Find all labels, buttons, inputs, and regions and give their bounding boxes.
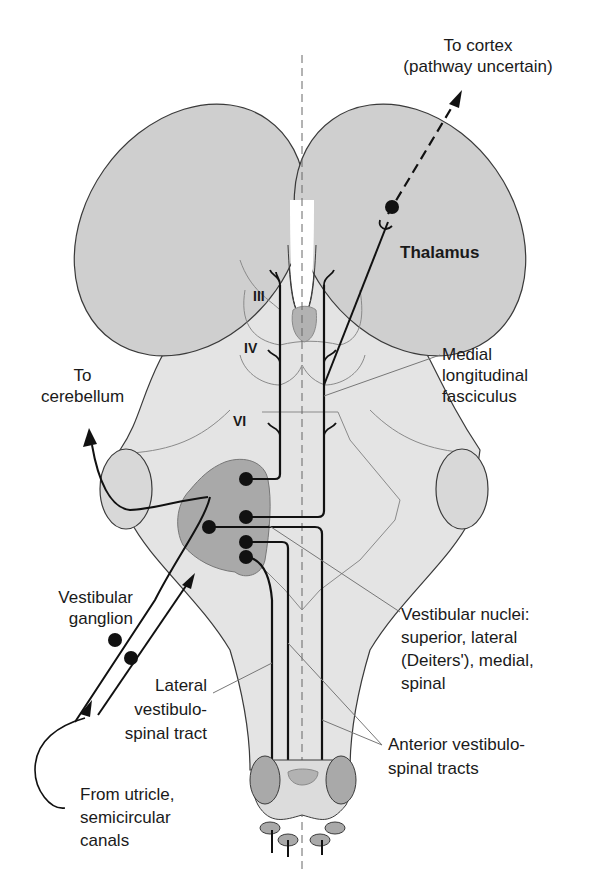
nerve-iv-label: IV: [244, 340, 257, 356]
lateral-vst-line-2: vestibulo-: [95, 698, 207, 722]
thalamic-relay-neuron: [385, 200, 399, 214]
vestibular-nuclei-line-1: Vestibular nuclei:: [401, 603, 534, 626]
anterior-vst-line-1: Anterior vestibulo-: [388, 733, 525, 757]
vestibular-ganglion-line-1: Vestibular: [20, 587, 133, 608]
thalamus-label: Thalamus: [400, 242, 479, 263]
right-peduncle: [436, 449, 488, 529]
mlf-line-2: longitudinal: [442, 365, 528, 386]
to-cortex-line-1: To cortex: [378, 35, 578, 56]
to-cortex-arrowhead: [449, 90, 462, 108]
from-utricle-line-2: semicircular: [80, 806, 174, 829]
vestibular-ganglion-label: Vestibular ganglion: [20, 587, 133, 629]
from-utricle-label: From utricle, semicircular canals: [80, 783, 174, 852]
mlf-label: Medial longitudinal fasciculus: [442, 344, 528, 407]
to-cortex-label: To cortex (pathway uncertain): [378, 35, 578, 77]
afferent-arrowhead-lower: [80, 700, 92, 717]
lateral-vst-label: Lateral vestibulo- spinal tract: [95, 674, 207, 746]
vestibular-nuclei-line-2: superior, lateral: [401, 626, 534, 649]
vestibular-nuclei-line-4: spinal: [401, 672, 534, 695]
vestibular-nuclei-line-3: (Deiters'), medial,: [401, 649, 534, 672]
to-cortex-line-2: (pathway uncertain): [378, 56, 578, 77]
ganglion-cell-2: [124, 651, 138, 665]
to-cerebellum-line-2: cerebellum: [35, 386, 130, 407]
vestibular-nuclei-label: Vestibular nuclei: superior, lateral (De…: [401, 603, 534, 695]
nucleus-neuron-4: [239, 535, 253, 549]
lateral-vst-line-1: Lateral: [95, 674, 207, 698]
vestibular-ganglion-line-2: ganglion: [20, 608, 133, 629]
nucleus-neuron-3: [202, 520, 216, 534]
left-peduncle: [100, 449, 152, 529]
nucleus-neuron-2: [239, 510, 253, 524]
to-cerebellum-label: To cerebellum: [35, 365, 130, 407]
nerve-vi-label: VI: [233, 413, 246, 429]
mlf-line-1: Medial: [442, 344, 528, 365]
lateral-vst-line-3: spinal tract: [95, 722, 207, 746]
to-cerebellum-line-1: To: [35, 365, 130, 386]
nucleus-neuron-5: [239, 550, 253, 564]
mlf-line-3: fasciculus: [442, 386, 528, 407]
from-utricle-line-1: From utricle,: [80, 783, 174, 806]
anterior-vst-line-2: spinal tracts: [388, 757, 525, 781]
nucleus-neuron-1: [239, 472, 253, 486]
from-utricle-line-3: canals: [80, 829, 174, 852]
ganglion-cell-1: [108, 633, 122, 647]
nerve-iii-label: III: [253, 288, 265, 304]
to-cerebellum-arrowhead: [83, 428, 97, 447]
from-utricle-curve: [35, 718, 85, 808]
anterior-vst-label: Anterior vestibulo- spinal tracts: [388, 733, 525, 781]
